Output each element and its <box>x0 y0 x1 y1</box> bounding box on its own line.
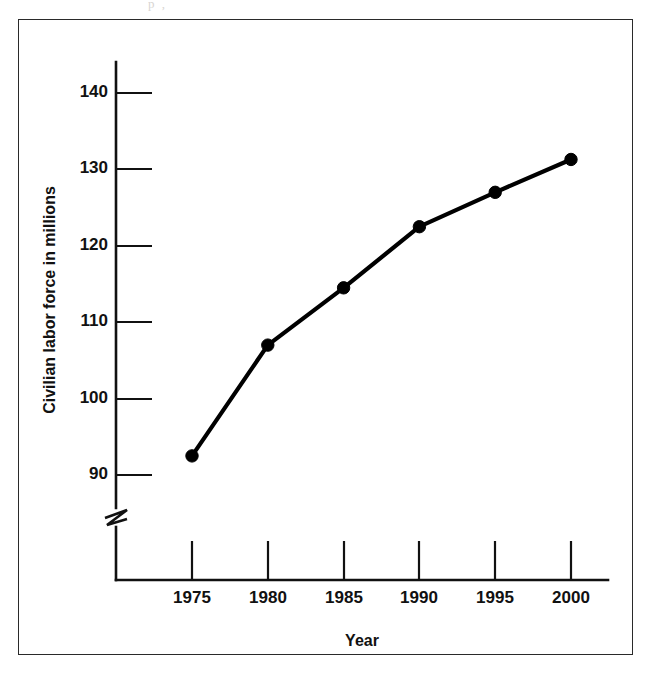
x-tick-label-1980: 1980 <box>249 588 287 607</box>
data-point-1990 <box>413 221 425 233</box>
x-tick-label-1995: 1995 <box>476 588 514 607</box>
series-line-civilian-labor-force <box>192 159 571 455</box>
y-tick-label-100: 100 <box>80 388 108 407</box>
x-tick-marks <box>192 541 571 580</box>
y-tick-labels: 140 130 120 110 100 90 <box>80 82 108 483</box>
data-point-1980 <box>262 339 274 351</box>
data-point-1975 <box>186 450 198 462</box>
x-tick-label-1990: 1990 <box>400 588 438 607</box>
y-tick-label-110: 110 <box>81 311 108 330</box>
data-point-1995 <box>489 186 501 198</box>
x-tick-labels: 1975 1980 1985 1990 1995 2000 <box>173 588 590 607</box>
y-tick-label-120: 120 <box>80 235 108 254</box>
y-tick-label-90: 90 <box>89 464 108 483</box>
x-tick-label-2000: 2000 <box>552 588 590 607</box>
x-tick-label-1985: 1985 <box>325 588 363 607</box>
data-point-1985 <box>337 282 349 294</box>
x-axis-title: Year <box>345 632 379 649</box>
x-tick-label-1975: 1975 <box>173 588 211 607</box>
y-tick-marks <box>116 93 152 475</box>
line-chart: 140 130 120 110 100 90 Civilian labor fo… <box>0 0 653 683</box>
y-axis-break-icon <box>105 510 127 525</box>
y-tick-label-130: 130 <box>80 158 108 177</box>
y-tick-label-140: 140 <box>80 82 108 101</box>
data-point-2000 <box>565 153 577 165</box>
y-axis-title: Civilian labor force in millions <box>41 186 58 414</box>
series-markers <box>186 153 577 462</box>
